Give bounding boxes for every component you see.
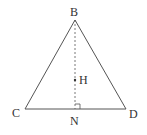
triangle-diagram: B C D N H [0,0,147,135]
label-h: H [79,73,88,87]
label-d: D [129,107,138,121]
segment-bd [75,20,126,109]
label-c: C [12,106,20,120]
label-b: B [70,5,78,19]
label-n: N [70,114,79,128]
point-h [74,79,76,81]
right-angle-marker [75,104,80,109]
segment-bc [25,20,75,109]
